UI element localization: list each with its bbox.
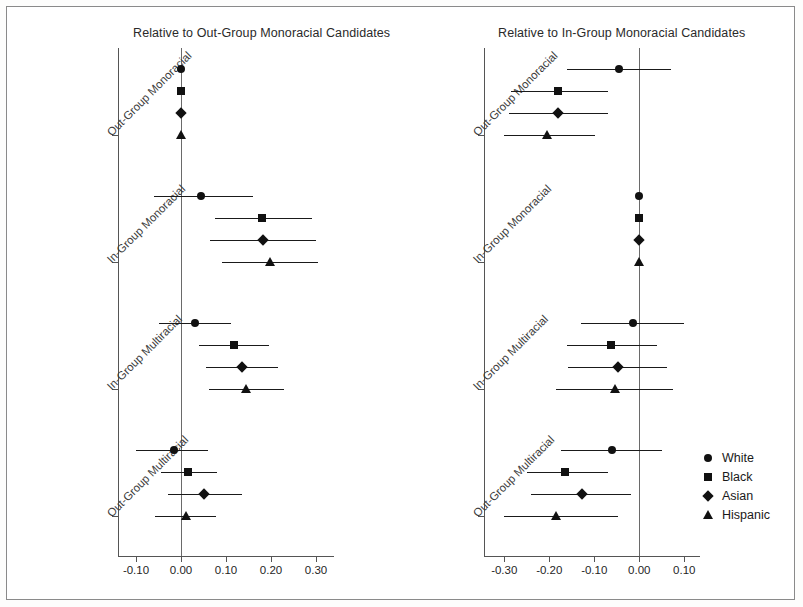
point-marker-square [184, 468, 192, 476]
legend-item-asian[interactable]: Asian [700, 486, 770, 505]
x-tick [639, 557, 640, 562]
x-tick-label: 0.10 [673, 564, 695, 576]
x-tick [594, 557, 595, 562]
point-marker-triangle [542, 130, 552, 139]
point-marker-triangle [241, 384, 251, 393]
x-tick-label: 0.00 [170, 564, 192, 576]
legend-marker-triangle-icon [700, 507, 716, 523]
legend-marker-circle-icon [700, 450, 716, 466]
x-tick-label: -0.30 [491, 564, 517, 576]
legend-marker-diamond-icon [700, 488, 716, 504]
x-tick [181, 557, 182, 562]
panel-right-title: Relative to In-Group Monoracial Candidat… [498, 26, 745, 40]
x-axis-line [484, 556, 700, 557]
point-marker-circle [191, 319, 199, 327]
point-marker-triangle [703, 510, 713, 519]
point-marker-square [258, 214, 266, 222]
legend-marker-square-icon [700, 469, 716, 485]
point-marker-triangle [181, 511, 191, 520]
zero-reference-line [639, 48, 640, 556]
x-tick-label: -0.10 [581, 564, 607, 576]
x-tick-label: 0.10 [215, 564, 237, 576]
point-marker-circle [170, 446, 178, 454]
legend-label: Black [722, 470, 753, 484]
point-marker-circle [197, 192, 205, 200]
x-tick-label: -0.20 [536, 564, 562, 576]
point-marker-circle [615, 65, 623, 73]
point-marker-square [177, 87, 185, 95]
point-marker-circle [629, 319, 637, 327]
legend-label: White [722, 451, 754, 465]
point-marker-square [635, 214, 643, 222]
legend-item-white[interactable]: White [700, 448, 770, 467]
point-marker-square [607, 341, 615, 349]
point-marker-triangle [610, 384, 620, 393]
point-marker-triangle [551, 511, 561, 520]
figure-border [6, 6, 795, 600]
point-marker-square [704, 473, 712, 481]
point-marker-square [561, 468, 569, 476]
point-marker-triangle [634, 257, 644, 266]
x-tick-label: 0.20 [260, 564, 282, 576]
x-tick-label: 0.30 [305, 564, 327, 576]
legend-item-black[interactable]: Black [700, 467, 770, 486]
x-tick [549, 557, 550, 562]
x-tick [684, 557, 685, 562]
legend: WhiteBlackAsianHispanic [700, 448, 770, 524]
x-tick [316, 557, 317, 562]
point-marker-circle [177, 65, 185, 73]
x-tick [271, 557, 272, 562]
x-tick-label: 0.00 [628, 564, 650, 576]
point-marker-square [230, 341, 238, 349]
figure-root: Relative to Out-Group Monoracial Candida… [0, 0, 803, 607]
point-marker-circle [635, 192, 643, 200]
point-marker-diamond [702, 490, 713, 501]
point-marker-triangle [176, 130, 186, 139]
point-marker-square [554, 87, 562, 95]
x-tick-label: -0.10 [123, 564, 149, 576]
panel-left-title: Relative to Out-Group Monoracial Candida… [133, 26, 390, 40]
zero-reference-line [181, 48, 182, 556]
x-tick [136, 557, 137, 562]
legend-label: Asian [722, 489, 753, 503]
x-tick [504, 557, 505, 562]
point-marker-triangle [265, 257, 275, 266]
legend-item-hispanic[interactable]: Hispanic [700, 505, 770, 524]
point-marker-circle [608, 446, 616, 454]
legend-label: Hispanic [722, 508, 770, 522]
point-marker-circle [704, 454, 712, 462]
x-tick [226, 557, 227, 562]
